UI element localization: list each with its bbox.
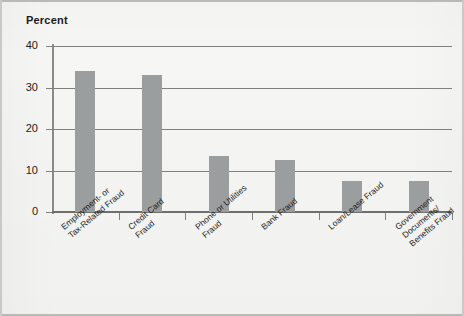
figure-top-rule	[0, 0, 464, 2]
x-axis-tick-mark	[385, 213, 386, 220]
y-axis-tick-mark	[46, 212, 52, 213]
figure-container: Percent 010203040 Employment- orTax-Rela…	[0, 0, 464, 316]
x-axis-tick-mark	[119, 213, 120, 220]
bar	[142, 75, 162, 212]
figure-left-rule	[0, 0, 2, 316]
bar	[75, 71, 95, 212]
x-axis-tick-mark	[185, 213, 186, 220]
y-axis-tick-label: 30	[12, 81, 38, 93]
y-axis-title: Percent	[26, 14, 68, 26]
y-axis-tick-label: 10	[12, 164, 38, 176]
y-axis-tick-label: 0	[12, 205, 38, 217]
x-axis-tick-mark	[252, 213, 253, 220]
y-axis-tick-label: 20	[12, 122, 38, 134]
x-axis-tick-mark	[319, 213, 320, 220]
y-axis-tick-label: 40	[12, 39, 38, 51]
